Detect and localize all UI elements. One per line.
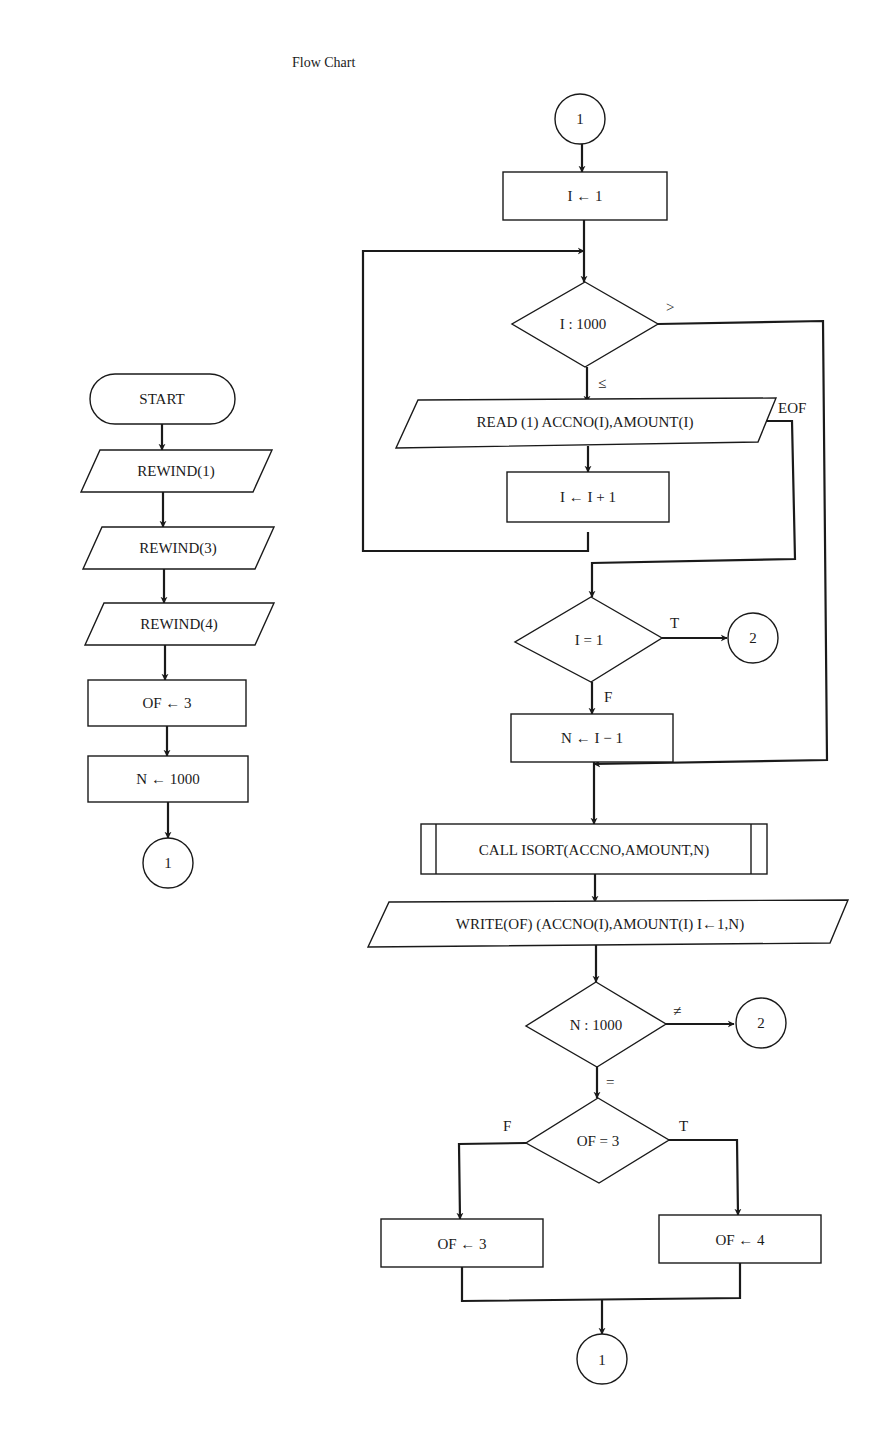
of-init-process: OF ← 3 [88, 680, 246, 726]
empty-test-label: I = 1 [575, 632, 603, 648]
n-set-process: N ← I − 1 [511, 714, 673, 762]
increment-process: I ← I + 1 [507, 472, 669, 522]
of-set4-label: OF ← 4 [715, 1232, 765, 1248]
empty-test-false-label: F [604, 689, 612, 705]
read-label: READ (1) ACCNO(I),AMOUNT(I) [476, 414, 693, 431]
n-test-eq-label: = [606, 1074, 614, 1090]
rewind4-io: REWIND(4) [85, 603, 274, 645]
n-set-label: N ← I − 1 [561, 730, 623, 746]
n-test-label: N : 1000 [570, 1017, 623, 1033]
connector-2b: 2 [736, 998, 786, 1048]
loop-test-le-label: ≤ [598, 375, 606, 391]
write-io: WRITE(OF) (ACCNO(I),AMOUNT(I) I←1,N) [368, 900, 848, 947]
of-set3-label: OF ← 3 [437, 1236, 486, 1252]
flowchart-canvas: Flow Chart START REWIND(1) REWIND(3) REW… [0, 0, 883, 1451]
right-flowchart: 1 I ← 1 I : 1000 > ≤ READ (1) ACCNO(I),A… [363, 94, 848, 1384]
rewind1-label: REWIND(1) [137, 463, 214, 480]
loop-test-gt-label: > [666, 299, 674, 315]
left-flowchart: START REWIND(1) REWIND(3) REWIND(4) OF ←… [81, 374, 274, 888]
n-init-label: N ← 1000 [136, 771, 199, 787]
n-test-decision: N : 1000 [526, 982, 666, 1067]
call-sort-subroutine: CALL ISORT(ACCNO,AMOUNT,N) [421, 824, 767, 874]
rewind4-label: REWIND(4) [140, 616, 217, 633]
call-sort-label: CALL ISORT(ACCNO,AMOUNT,N) [479, 842, 709, 859]
n-test-ne-label: ≠ [673, 1003, 681, 1019]
rewind1-io: REWIND(1) [81, 450, 272, 492]
write-label: WRITE(OF) (ACCNO(I),AMOUNT(I) I←1,N) [456, 916, 744, 933]
read-io: READ (1) ACCNO(I),AMOUNT(I) [396, 398, 776, 448]
n-init-process: N ← 1000 [88, 756, 248, 802]
empty-test-decision: I = 1 [515, 597, 662, 682]
of-test-label: OF = 3 [577, 1133, 620, 1149]
connector-1-end: 1 [577, 1334, 627, 1384]
rewind3-io: REWIND(3) [83, 527, 274, 569]
connector-1-out: 1 [143, 838, 193, 888]
loop-test-decision: I : 1000 [512, 282, 658, 367]
of-set4-process: OF ← 4 [659, 1215, 821, 1263]
connector-2b-label: 2 [757, 1015, 765, 1031]
connector-1-end-label: 1 [598, 1352, 606, 1368]
connector-1-out-label: 1 [164, 855, 172, 871]
of-init-label: OF ← 3 [142, 695, 191, 711]
empty-test-true-label: T [670, 615, 679, 631]
chart-title: Flow Chart [292, 55, 356, 70]
start-terminal: START [90, 374, 235, 424]
i-init-process: I ← 1 [503, 172, 667, 220]
connector-1-in-label: 1 [576, 111, 584, 127]
read-eof-label: EOF [778, 400, 806, 416]
of-set3-process: OF ← 3 [381, 1219, 543, 1267]
start-label: START [139, 391, 184, 407]
of-test-false-label: F [503, 1118, 511, 1134]
of-test-decision: OF = 3 [526, 1098, 669, 1183]
of-test-true-label: T [679, 1118, 688, 1134]
loop-test-label: I : 1000 [560, 316, 607, 332]
rewind3-label: REWIND(3) [139, 540, 216, 557]
connector-2a-label: 2 [749, 630, 757, 646]
increment-label: I ← I + 1 [560, 489, 616, 505]
connector-2a: 2 [728, 613, 778, 663]
i-init-label: I ← 1 [568, 188, 603, 204]
connector-1-in: 1 [555, 94, 605, 144]
